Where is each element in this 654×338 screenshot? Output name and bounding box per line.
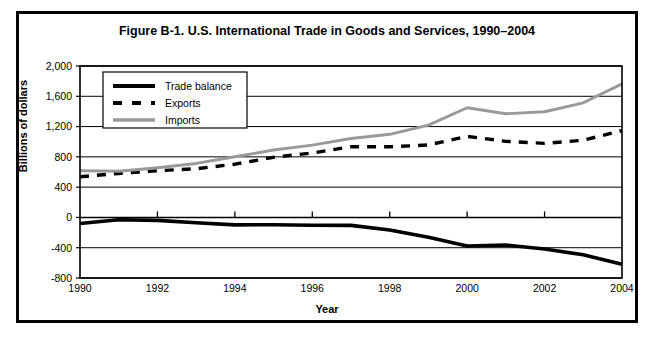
legend-label-imports: Imports [165, 114, 200, 126]
figure-container: Figure B-1. U.S. International Trade in … [0, 0, 654, 338]
y-tick-label: 2,000 [46, 60, 72, 72]
x-tick-label: 2002 [533, 282, 557, 294]
y-tick-label: 400 [54, 181, 72, 193]
x-tick-label: 1994 [223, 282, 247, 294]
legend-label-trade-balance: Trade balance [165, 80, 232, 92]
y-tick-label: 800 [54, 151, 72, 163]
y-tick-label: 1,200 [46, 120, 72, 132]
x-tick-label: 1990 [68, 282, 92, 294]
series-line-trade-balance [80, 220, 622, 264]
x-tick-label: 2000 [455, 282, 479, 294]
legend: Trade balanceExportsImports [103, 72, 247, 128]
x-tick-label: 1992 [146, 282, 170, 294]
y-axis-ticks: 2,0001,6001,2008004000-400-800 [46, 60, 80, 284]
x-tick-label: 1996 [301, 282, 325, 294]
y-tick-label: 0 [66, 211, 72, 223]
plot-area: 2,0001,6001,2008004000-400-800 199019921… [0, 0, 654, 338]
x-tick-label: 2004 [610, 282, 634, 294]
y-tick-label: 1,600 [46, 90, 72, 102]
x-tick-label: 1998 [378, 282, 402, 294]
y-tick-label: -400 [51, 242, 72, 254]
legend-label-exports: Exports [165, 97, 201, 109]
